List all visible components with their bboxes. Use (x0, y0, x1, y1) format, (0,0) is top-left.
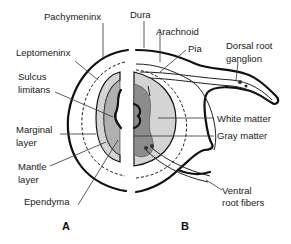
ganglion-cell (238, 80, 242, 84)
spinal-cord-diagram: Pachymeninx Leptomeninx Sulcus limitans … (0, 0, 291, 244)
label-dorsal-root-ganglion-line2: ganglion (226, 53, 262, 64)
label-ependyma: Ependyma (24, 196, 70, 207)
label-gray-matter: Gray matter (217, 130, 267, 141)
leader-ventral-root-fibers (206, 180, 222, 190)
ventral-horn-neuron-2 (150, 144, 154, 148)
label-sulcus-limitans-line1: Sulcus (18, 71, 47, 82)
label-marginal-layer-line1: Marginal (16, 124, 52, 135)
panel-label-a: A (62, 220, 70, 232)
label-ventral-root-fibers-line1: Ventral (222, 185, 252, 196)
ganglion-cell-2 (244, 84, 247, 87)
ventral-sleeve-line (178, 170, 210, 174)
panel-a-drawing (68, 50, 128, 191)
label-mantle-layer-line2: layer (18, 174, 39, 185)
ventral-horn-neuron (144, 146, 148, 150)
label-arachnoid: Arachnoid (156, 26, 199, 37)
label-dorsal-root-ganglion-line1: Dorsal root (226, 40, 273, 51)
label-sulcus-limitans-line2: limitans (18, 84, 50, 95)
label-marginal-layer-line2: layer (16, 137, 37, 148)
label-mantle-layer-line1: Mantle (18, 161, 47, 172)
label-pachymeninx: Pachymeninx (44, 11, 101, 22)
label-dura: Dura (130, 9, 151, 20)
label-leptomeninx: Leptomeninx (16, 47, 71, 58)
label-white-matter: White matter (217, 113, 271, 124)
label-pia: Pia (188, 43, 202, 54)
panel-label-b: B (181, 220, 189, 232)
label-ventral-root-fibers-line2: root fibers (222, 197, 264, 208)
